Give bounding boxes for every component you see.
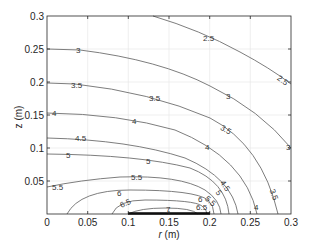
svg-text:0.15: 0.15 — [159, 217, 179, 228]
contour-chart: 2.5 2.5 3 3 3 3.5 3.5 3.5 3.5 4 4 4 4 4.… — [0, 0, 311, 251]
svg-text:0.25: 0.25 — [241, 217, 261, 228]
svg-text:3.5: 3.5 — [268, 188, 280, 202]
svg-text:7: 7 — [166, 205, 171, 214]
svg-text:2.5: 2.5 — [203, 34, 215, 43]
svg-text:3: 3 — [76, 46, 81, 55]
svg-text:4: 4 — [52, 109, 57, 118]
svg-text:4: 4 — [254, 203, 259, 212]
svg-text:0.15: 0.15 — [25, 110, 45, 121]
svg-text:5: 5 — [146, 157, 151, 166]
x-tick-labels: 0 0.05 0.1 0.15 0.2 0.25 0.3 — [44, 217, 298, 228]
svg-text:3.5: 3.5 — [219, 123, 234, 137]
y-axis-label: z (m) — [13, 106, 24, 129]
svg-text:3.5: 3.5 — [149, 94, 161, 103]
svg-text:5.5: 5.5 — [52, 183, 64, 192]
svg-text:3: 3 — [226, 92, 231, 101]
svg-text:0.05: 0.05 — [78, 217, 98, 228]
svg-text:5: 5 — [66, 151, 71, 160]
contour-5.5 — [47, 177, 221, 214]
svg-text:0.2: 0.2 — [30, 77, 44, 88]
svg-text:0.25: 0.25 — [25, 44, 45, 55]
svg-text:4.5: 4.5 — [75, 134, 87, 143]
svg-text:2.5: 2.5 — [275, 74, 290, 88]
svg-text:6.5: 6.5 — [119, 197, 133, 210]
contour-3.5 — [47, 83, 278, 214]
x-axis-label: r (m) — [158, 229, 179, 240]
svg-text:0: 0 — [44, 217, 50, 228]
svg-text:0.05: 0.05 — [25, 176, 45, 187]
svg-text:6.5: 6.5 — [196, 203, 208, 212]
svg-text:3: 3 — [286, 143, 291, 152]
grid — [47, 16, 291, 214]
svg-text:0.1: 0.1 — [121, 217, 135, 228]
contour-2.5 — [153, 16, 291, 84]
y-tick-labels: 0.3 0.25 0.2 0.15 0.1 0.05 — [25, 11, 45, 187]
svg-text:4: 4 — [205, 143, 210, 152]
svg-text:0.2: 0.2 — [203, 217, 217, 228]
svg-text:6: 6 — [117, 189, 122, 198]
svg-text:0.1: 0.1 — [30, 143, 44, 154]
svg-text:5.5: 5.5 — [131, 173, 143, 182]
svg-text:0.3: 0.3 — [284, 217, 298, 228]
svg-text:3.5: 3.5 — [71, 81, 83, 90]
svg-text:4: 4 — [132, 117, 137, 126]
svg-text:0.3: 0.3 — [30, 11, 44, 22]
